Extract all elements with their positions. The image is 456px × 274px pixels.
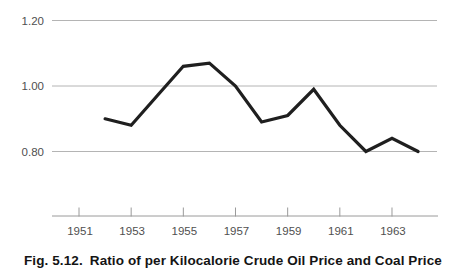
figure-caption-title: Ratio of per Kilocalorie Crude Oil Price… (90, 253, 442, 268)
y-axis-tick-label: 0.80 (22, 146, 44, 158)
figure-caption: Fig. 5.12.Ratio of per Kilocalorie Crude… (24, 253, 452, 268)
ratio-line-chart: 1.201.000.801951195319551957195919611963 (0, 0, 456, 246)
x-axis-tick-label: 1955 (172, 225, 198, 237)
x-axis-tick-label: 1961 (328, 225, 354, 237)
x-axis-tick-label: 1963 (380, 225, 406, 237)
figure-5-12: 1.201.000.801951195319551957195919611963… (0, 0, 456, 274)
figure-caption-number: Fig. 5.12. (24, 253, 83, 268)
x-axis-tick-label: 1953 (119, 225, 145, 237)
x-axis-tick-label: 1957 (224, 225, 250, 237)
price-ratio-line (105, 63, 418, 151)
y-axis-tick-label: 1.00 (22, 80, 44, 92)
x-axis-tick-label: 1951 (67, 225, 93, 237)
y-axis-tick-label: 1.20 (22, 15, 44, 27)
x-axis-tick-label: 1959 (276, 225, 302, 237)
